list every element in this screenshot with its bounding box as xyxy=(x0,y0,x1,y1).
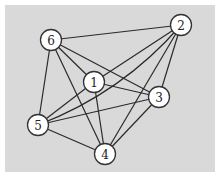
edge-6-3 xyxy=(51,40,159,97)
edge-2-4 xyxy=(105,25,181,154)
edge-2-3 xyxy=(159,25,181,97)
node-label: 2 xyxy=(177,19,185,33)
node-3: 3 xyxy=(149,87,170,108)
edge-3-4 xyxy=(105,97,159,154)
node-label: 6 xyxy=(47,34,55,48)
node-label: 5 xyxy=(34,119,42,133)
node-1: 1 xyxy=(84,72,105,93)
edge-6-5 xyxy=(38,40,51,125)
node-label: 3 xyxy=(155,91,163,105)
node-label: 1 xyxy=(90,76,98,90)
nodes-layer: 123456 xyxy=(28,15,192,165)
node-5: 5 xyxy=(28,115,49,136)
node-2: 2 xyxy=(171,15,192,36)
node-6: 6 xyxy=(41,30,62,51)
node-label: 4 xyxy=(101,148,109,162)
node-4: 4 xyxy=(95,144,116,165)
graph-canvas: 123456 xyxy=(0,0,221,181)
